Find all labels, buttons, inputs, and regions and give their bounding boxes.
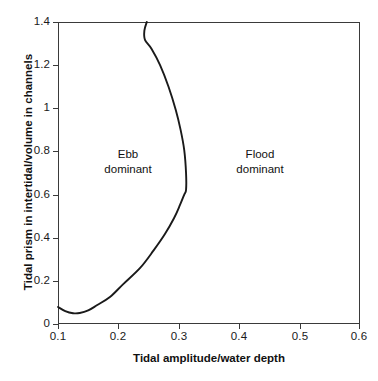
y-tick-mark [53,324,58,325]
y-tick-mark [53,65,58,66]
annotation-ebb-line1: Ebb [85,147,171,162]
y-tick-mark [53,281,58,282]
x-tick-mark [239,324,240,329]
annotation-ebb-dominant: Ebb dominant [85,147,171,177]
x-tick-label: 0.2 [98,330,138,342]
x-tick-mark [300,324,301,329]
x-tick-label: 0.3 [159,330,199,342]
y-tick-mark [53,22,58,23]
chart-figure: 0.1 0.2 0.3 0.4 0.5 0.6 0 0.2 0.4 0.6 0.… [0,0,378,381]
y-axis-title: Tidal prism in intertidal/volume in chan… [22,2,34,342]
x-axis-title: Tidal amplitude/water depth [58,352,360,364]
x-tick-mark [58,324,59,329]
x-tick-mark [179,324,180,329]
x-tick-label: 0.4 [219,330,259,342]
x-tick-label: 0.1 [38,330,78,342]
x-tick-label: 0.6 [339,330,378,342]
annotation-ebb-line2: dominant [85,162,171,177]
x-tick-label: 0.5 [280,330,320,342]
x-tick-mark [359,324,360,329]
annotation-flood-dominant: Flood dominant [214,147,306,177]
annotation-flood-line1: Flood [214,147,306,162]
y-tick-mark [53,108,58,109]
y-tick-mark [53,238,58,239]
annotation-flood-line2: dominant [214,162,306,177]
y-tick-mark [53,195,58,196]
x-tick-mark [118,324,119,329]
y-tick-mark [53,151,58,152]
